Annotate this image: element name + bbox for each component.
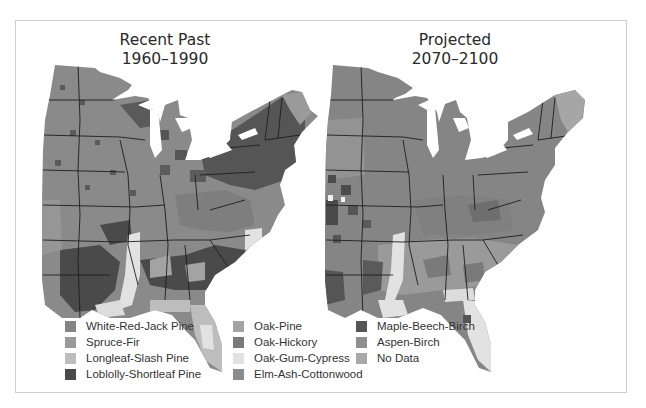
legend-item-loblolly-shortleaf-pine: Loblolly-Shortleaf Pine: [65, 366, 201, 382]
legend-label: Spruce-Fir: [86, 336, 140, 348]
legend-item-elm-ash-cottonwood: Elm-Ash-Cottonwood: [233, 366, 363, 382]
legend-swatch: [233, 337, 244, 348]
legend-label: Loblolly-Shortleaf Pine: [86, 368, 201, 380]
legend-item-spruce-fir: Spruce-Fir: [65, 334, 140, 350]
legend-label: Oak-Gum-Cypress: [254, 352, 350, 364]
legend-swatch: [356, 321, 367, 332]
legend-swatch: [233, 321, 244, 332]
legend-swatch: [65, 353, 76, 364]
legend-item-white-red-jack-pine: White-Red-Jack Pine: [65, 318, 194, 334]
legend-item-aspen-birch: Aspen-Birch: [356, 334, 440, 350]
legend-label: Aspen-Birch: [377, 336, 440, 348]
legend-label: Maple-Beech-Birch: [377, 320, 475, 332]
legend-label: Oak-Pine: [254, 320, 302, 332]
legend-item-oak-hickory: Oak-Hickory: [233, 334, 317, 350]
legend-swatch: [65, 321, 76, 332]
legend-label: White-Red-Jack Pine: [86, 320, 194, 332]
legend-swatch: [356, 353, 367, 364]
legend-label: Oak-Hickory: [254, 336, 317, 348]
legend-swatch: [356, 337, 367, 348]
legend-swatch: [233, 353, 244, 364]
legend-label: No Data: [377, 352, 419, 364]
legend-item-oak-gum-cypress: Oak-Gum-Cypress: [233, 350, 350, 366]
legend-label: Elm-Ash-Cottonwood: [254, 368, 363, 380]
legend-swatch: [65, 337, 76, 348]
legend-swatch: [233, 369, 244, 380]
legend-item-no-data: No Data: [356, 350, 419, 366]
legend-swatch: [65, 369, 76, 380]
legend-label: Longleaf-Slash Pine: [86, 352, 189, 364]
legend-item-oak-pine: Oak-Pine: [233, 318, 302, 334]
legend-item-longleaf-slash-pine: Longleaf-Slash Pine: [65, 350, 189, 366]
legend-item-maple-beech-birch: Maple-Beech-Birch: [356, 318, 475, 334]
